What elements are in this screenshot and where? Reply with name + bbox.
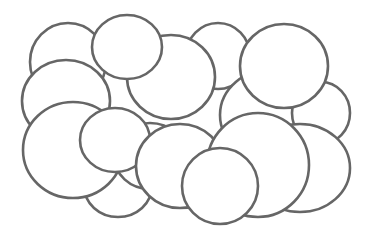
ellipse-16 bbox=[182, 148, 258, 224]
ellipse-11 bbox=[92, 15, 162, 79]
ellipse-12 bbox=[240, 24, 328, 108]
overlapping-ellipses-diagram bbox=[0, 0, 371, 237]
ellipse-group bbox=[22, 15, 350, 224]
